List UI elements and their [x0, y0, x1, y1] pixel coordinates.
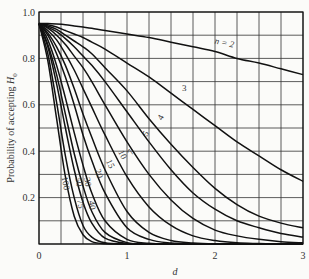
- x-axis-label: d: [173, 266, 179, 277]
- x-tick-label: 0: [37, 250, 42, 261]
- curve-label: 5: [140, 129, 151, 138]
- oc-curve-chart: n = 2345710152030405075100 01230.20.40.6…: [0, 0, 309, 279]
- curve-label: 100: [60, 176, 72, 192]
- x-tick-label: 1: [125, 250, 130, 261]
- grid-lines: [39, 12, 303, 244]
- y-axis-label: Probability of accepting H0: [5, 73, 19, 183]
- curve-label: 3: [182, 83, 187, 93]
- y-tick-label: 1.0: [23, 7, 36, 18]
- chart-canvas: n = 2345710152030405075100 01230.20.40.6…: [0, 0, 309, 279]
- curve-label: n = 2: [214, 36, 236, 50]
- curve-label: 40: [86, 200, 97, 211]
- x-tick-label: 2: [213, 250, 218, 261]
- y-tick-label: 0.6: [23, 99, 36, 110]
- curve-label: 15: [104, 158, 117, 171]
- y-tick-label: 0.8: [23, 53, 36, 64]
- curve-label: 4: [155, 112, 166, 121]
- x-tick-label: 3: [301, 250, 306, 261]
- y-tick-label: 0.4: [23, 146, 36, 157]
- y-tick-label: 0.2: [23, 192, 36, 203]
- curve-label: 20: [93, 168, 105, 180]
